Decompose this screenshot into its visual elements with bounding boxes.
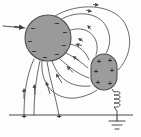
sphere-minus-1: − [31,24,36,33]
sphere-minus-4: − [43,53,48,62]
capsule-plus-4: + [110,66,115,75]
capsule-plus-1: + [97,57,102,66]
ground-plus-1: + [22,112,27,121]
ground-plus-2: + [57,112,62,121]
capsule-plus-5: + [96,78,101,87]
capsule-plus-3: + [94,67,99,76]
capsule-plus-2: + [108,56,113,65]
sphere-minus-3: − [32,47,37,56]
sphere-minus-7: − [63,28,68,37]
figure-root: − − − − − − − − + + + + + + [0,0,141,137]
sphere-minus-5: − [55,50,60,59]
charged-sphere: − − − − − − − − [25,15,71,62]
sphere-minus-6: − [62,41,67,50]
sphere-minus-8: − [55,19,60,28]
charged-capsule-body: + + + + + + [91,54,117,90]
sphere-minus-2: − [28,37,33,46]
capsule-plus-6: + [108,79,113,88]
field-diagram-svg: − − − − − − − − + + + + + + [0,0,141,137]
